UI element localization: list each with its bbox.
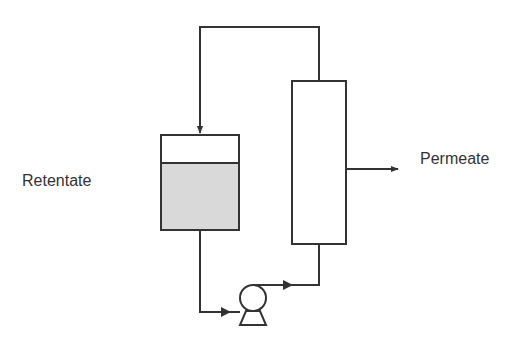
membrane-module (292, 81, 346, 244)
tank-to-pump-line (200, 230, 240, 312)
pump (240, 285, 266, 325)
permeate-label: Permeate (420, 150, 489, 168)
pump-to-column-line (253, 244, 319, 285)
retentate-label: Retentate (22, 172, 91, 190)
flow-arrow-icon (221, 307, 231, 317)
retentate-tank (161, 135, 239, 230)
pump-casing-icon (240, 285, 266, 311)
flow-arrow-icon (283, 280, 293, 290)
tank-liquid (161, 163, 239, 230)
pump-base-icon (240, 311, 266, 325)
